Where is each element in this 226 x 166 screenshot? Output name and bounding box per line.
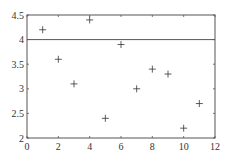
plus-marker-icon xyxy=(118,41,125,48)
y-tick-label: 2.5 xyxy=(12,108,25,119)
plus-marker-icon xyxy=(196,100,203,107)
plus-marker-icon xyxy=(39,26,46,33)
y-tick-label: 3.5 xyxy=(12,59,25,70)
plus-marker-icon xyxy=(149,66,156,73)
axes-box xyxy=(27,15,215,138)
plus-marker-icon xyxy=(133,85,140,92)
x-tick-label: 2 xyxy=(56,141,61,152)
x-axis-ticks: 024681012 xyxy=(25,15,221,152)
x-tick-label: 8 xyxy=(150,141,155,152)
scatter-chart: 024681012 22.533.544.5 xyxy=(0,0,226,166)
x-tick-label: 12 xyxy=(210,141,220,152)
x-tick-label: 0 xyxy=(25,141,30,152)
x-tick-label: 6 xyxy=(119,141,124,152)
plus-marker-icon xyxy=(180,125,187,132)
plus-marker-icon xyxy=(71,80,78,87)
data-markers xyxy=(39,16,203,131)
plus-marker-icon xyxy=(86,16,93,23)
plus-marker-icon xyxy=(165,71,172,78)
y-tick-label: 4.5 xyxy=(12,10,25,21)
y-tick-label: 4 xyxy=(19,34,24,45)
y-tick-label: 3 xyxy=(19,83,24,94)
x-tick-label: 10 xyxy=(179,141,189,152)
plot-frame xyxy=(27,15,215,138)
y-tick-label: 2 xyxy=(19,133,24,144)
plus-marker-icon xyxy=(102,115,109,122)
x-tick-label: 4 xyxy=(87,141,92,152)
plus-marker-icon xyxy=(55,56,62,63)
